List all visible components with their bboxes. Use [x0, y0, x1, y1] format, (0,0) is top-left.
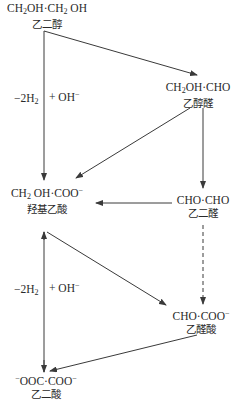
- node-ethylene-glycol: CH2OH·CH2 OH 乙二醇: [4, 2, 90, 31]
- arrow-glycolate-to-glyoxylate: [47, 232, 166, 305]
- name-glyoxylate: 乙醛酸: [166, 323, 236, 336]
- formula-glycolate: CH2 OH·COO−: [2, 184, 92, 203]
- node-glycolaldehyde: CH2OH·CHO 乙醇醛: [160, 81, 236, 110]
- node-oxalate: −OOC·COO− 乙二酸: [10, 372, 82, 401]
- name-glycolate: 羟基乙酸: [2, 203, 92, 216]
- formula-oxalate: −OOC·COO−: [10, 372, 82, 388]
- label-upper-minus-2h2: −2H2: [14, 92, 39, 106]
- label-upper-plus-oh: + OH−: [49, 90, 80, 103]
- name-glyoxal: 乙二醛: [172, 207, 234, 220]
- label-lower-minus-2h2: −2H2: [14, 283, 39, 297]
- arrow-glyoxylate-to-oxalate: [50, 335, 197, 371]
- name-glycolaldehyde: 乙醇醛: [160, 97, 236, 110]
- name-ethylene-glycol: 乙二醇: [4, 18, 90, 31]
- name-oxalate: 乙二酸: [10, 388, 82, 401]
- node-glycolate: CH2 OH·COO− 羟基乙酸: [2, 184, 92, 216]
- node-glyoxal: CHO·CHO 乙二醛: [172, 194, 234, 220]
- arrow-glycol-to-glycolaldehyde: [44, 31, 197, 75]
- formula-glyoxylate: CHO·COO−: [166, 307, 236, 323]
- formula-glycolaldehyde: CH2OH·CHO: [160, 81, 236, 97]
- arrow-glycolaldehyde-to-glycolate: [76, 108, 190, 178]
- formula-ethylene-glycol: CH2OH·CH2 OH: [4, 2, 90, 18]
- label-lower-plus-oh: + OH−: [49, 281, 80, 294]
- node-glyoxylate: CHO·COO− 乙醛酸: [166, 307, 236, 336]
- formula-glyoxal: CHO·CHO: [172, 194, 234, 207]
